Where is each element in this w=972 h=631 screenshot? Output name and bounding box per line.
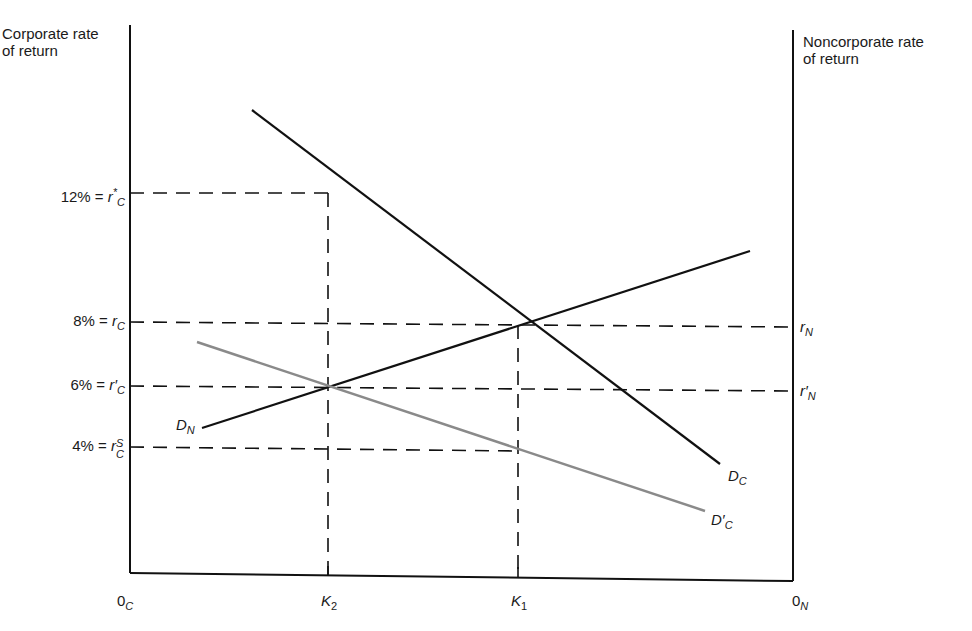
y-label-4pct: 4% = rSC: [72, 437, 125, 455]
dash-4pct: [130, 447, 518, 451]
right-label-sub: N: [808, 390, 816, 402]
y-label-sub: C: [117, 320, 125, 332]
curve-label-name: D: [728, 467, 739, 484]
y-label-8pct: 8% = rC: [73, 312, 125, 335]
right-axis-title-line1: Noncorporate rate: [803, 33, 924, 50]
y-label-sub: C: [117, 384, 125, 396]
curve-dc: [252, 110, 720, 464]
curve-label-name: D: [711, 511, 722, 528]
bottom-axis: [130, 573, 793, 581]
y-label-pct: 12% =: [61, 188, 108, 205]
curve-label-sub: C: [739, 475, 747, 487]
curve-label-dc: DC: [728, 467, 747, 490]
origin-left-label: 0C: [117, 592, 133, 615]
y-label-pct: 6% =: [70, 376, 109, 393]
right-label-rn-prime: r′N: [800, 382, 816, 405]
y-label-6pct: 6% = r′C: [70, 376, 125, 399]
curve-label-dn: DN: [176, 416, 195, 439]
right-axis-title-line2: of return: [803, 50, 924, 67]
y-label-12pct: 12% = r*C: [61, 183, 125, 211]
origin-left-sub: C: [125, 600, 133, 612]
tax-incidence-diagram: Corporate rate of return Noncorporate ra…: [0, 0, 972, 631]
reference-lines: [130, 193, 793, 577]
x-label-symbol: K: [511, 592, 521, 609]
right-axis-title: Noncorporate rate of return: [803, 33, 924, 67]
right-label-sub: N: [805, 326, 813, 338]
y-label-sub: C: [117, 196, 125, 208]
y-label-stack: SC: [116, 437, 125, 455]
diagram-canvas: [0, 0, 972, 631]
x-label-k2: K2: [321, 592, 337, 615]
curve-label-sub: N: [187, 424, 195, 436]
right-label-rn: rN: [800, 318, 813, 341]
y-label-pct: 4% =: [72, 437, 111, 454]
dash-8pct: [130, 322, 793, 327]
y-label-pct: 8% =: [73, 312, 112, 329]
left-axis-title-line2: of return: [2, 42, 99, 59]
curve-label-name: D: [176, 416, 187, 433]
origin-right-sub: N: [800, 600, 808, 612]
curve-dn: [202, 251, 750, 428]
dash-6pct: [130, 386, 793, 391]
x-label-symbol: K: [321, 592, 331, 609]
y-label-sub: C: [116, 445, 124, 463]
x-label-k1: K1: [511, 592, 527, 615]
origin-right-label: 0N: [792, 592, 808, 615]
x-label-sub: 2: [331, 600, 337, 612]
x-label-sub: 1: [521, 600, 527, 612]
curve-label-dc-prime: D′C: [711, 511, 733, 534]
left-axis-title: Corporate rate of return: [2, 25, 99, 59]
curve-label-sub: C: [725, 519, 733, 531]
curve-dc-prime: [197, 342, 705, 511]
left-axis-title-line1: Corporate rate: [2, 25, 99, 42]
